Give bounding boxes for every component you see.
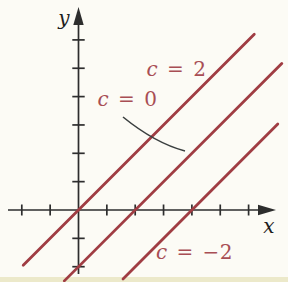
curve-label-value: = 0 <box>109 87 157 111</box>
curve-label-value: = −2 <box>168 240 233 264</box>
y-axis-label: y <box>57 6 70 30</box>
curve-label-variable: c <box>98 87 110 111</box>
curve-label-2: c = −2 <box>156 240 233 264</box>
curve-label-variable: c <box>156 240 168 264</box>
curve-label-1: c = 0 <box>98 87 158 111</box>
curve-label-0: c = 2 <box>147 57 207 81</box>
page-edge-tint <box>0 277 288 282</box>
curve-label-variable: c <box>147 57 159 81</box>
level-curves-figure: c = 2c = 0c = −2xy <box>0 0 288 282</box>
x-axis-label: x <box>263 214 274 238</box>
plot-svg: c = 2c = 0c = −2xy <box>0 0 288 282</box>
curve-label-value: = 2 <box>158 57 206 81</box>
